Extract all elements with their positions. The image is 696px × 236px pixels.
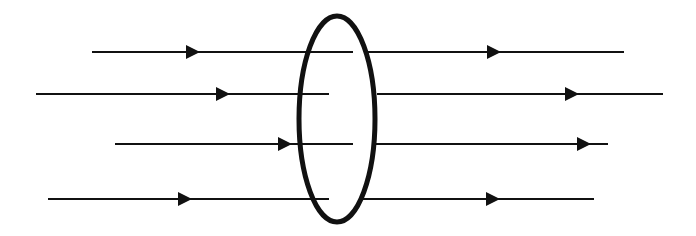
arrowhead-icon [178, 192, 192, 206]
field-lines [36, 45, 663, 206]
arrowhead-icon [487, 45, 501, 59]
arrowhead-icon [565, 87, 579, 101]
field-lines-through-loop-diagram [0, 0, 696, 236]
arrowhead-icon [278, 137, 292, 151]
arrowhead-icon [486, 192, 500, 206]
arrowhead-icon [577, 137, 591, 151]
closed-loop-ellipse [299, 16, 375, 222]
arrowhead-icon [216, 87, 230, 101]
arrowhead-icon [186, 45, 200, 59]
